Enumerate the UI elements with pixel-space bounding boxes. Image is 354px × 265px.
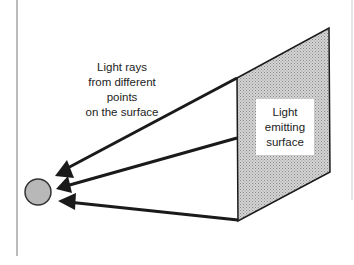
- light-ray-bottom: [68, 202, 238, 220]
- caption-line: points: [72, 90, 172, 105]
- surface-label-line: surface: [256, 135, 314, 150]
- arrowhead-bottom-icon: [58, 193, 76, 210]
- light-rays-caption: Light rays from different points on the …: [72, 60, 172, 120]
- caption-line: from different: [72, 75, 172, 90]
- surface-label: Light emitting surface: [256, 99, 314, 155]
- arrowhead-top-icon: [55, 160, 74, 178]
- arrowhead-middle-icon: [56, 176, 72, 193]
- observer-eye: [25, 179, 51, 205]
- surface-label-line: emitting: [256, 120, 314, 135]
- surface-label-line: Light: [256, 105, 314, 120]
- light-ray-middle: [66, 138, 237, 186]
- caption-line: Light rays: [72, 60, 172, 75]
- caption-line: on the surface: [72, 105, 172, 120]
